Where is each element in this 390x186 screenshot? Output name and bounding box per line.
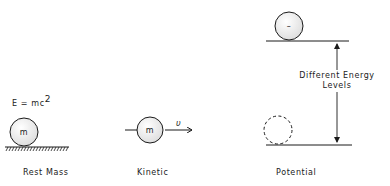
raised-ball-label: – <box>287 22 292 31</box>
kinetic-group: m υ Kinetic <box>125 117 192 177</box>
ground-hatch <box>6 147 68 151</box>
energy-levels-label-1: Different Energy <box>299 71 374 80</box>
equation-text: E = mc2 <box>12 94 51 108</box>
rest-mass-group: E = mc2 m Rest Mass <box>5 94 69 177</box>
ground-ball-ghost <box>264 116 292 144</box>
rest-mass-caption: Rest Mass <box>23 168 69 177</box>
kinetic-caption: Kinetic <box>137 168 168 177</box>
energy-levels-label-2: Levels <box>323 81 352 90</box>
potential-caption: Potential <box>276 168 316 177</box>
kinetic-m-label: m <box>146 126 154 135</box>
potential-group: – Different Energy Levels Potential <box>264 12 375 177</box>
velocity-label: υ <box>176 119 181 128</box>
rest-mass-m-label: m <box>20 128 28 137</box>
energy-forms-diagram: E = mc2 m Rest Mass m υ Kinetic – Differ… <box>0 0 390 186</box>
